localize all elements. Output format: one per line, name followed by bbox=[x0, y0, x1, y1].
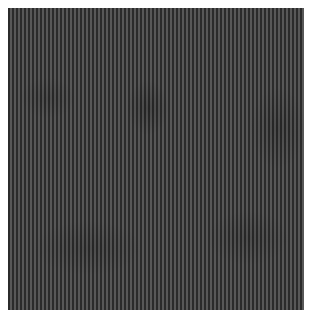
fabric-texture-image bbox=[8, 8, 304, 310]
image-canvas: Close-up texture of dark gray fabric wit… bbox=[0, 0, 310, 326]
